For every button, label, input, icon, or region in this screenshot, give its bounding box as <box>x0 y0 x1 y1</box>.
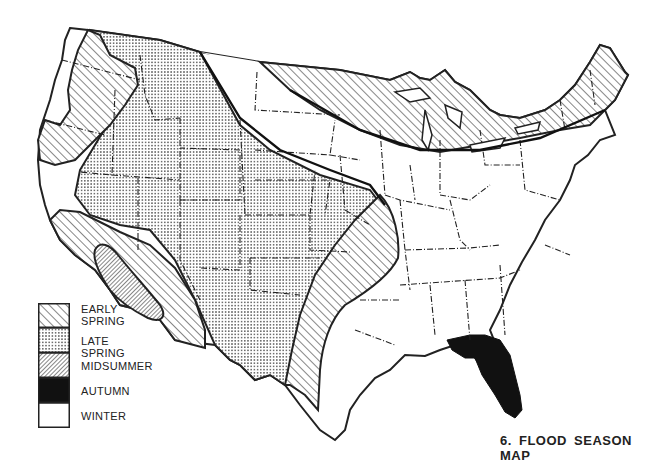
legend-label-early-spring-line1: EARLY <box>81 303 118 315</box>
midsummer-swatch-icon <box>38 353 70 378</box>
legend-label-winter: WINTER <box>81 410 126 422</box>
region-autumn-florida <box>447 335 522 418</box>
map-title: 6. FLOOD SEASON MAP <box>500 433 669 463</box>
early-spring-swatch-icon <box>38 303 70 328</box>
legend-label-midsummer: MIDSUMMER <box>81 360 153 372</box>
autumn-swatch-icon <box>38 378 70 403</box>
late-spring-swatch-icon <box>38 328 70 353</box>
legend-label-late-spring: LATE SPRING <box>81 335 125 359</box>
legend-label-early-spring-line2: SPRING <box>81 315 125 327</box>
flood-season-map <box>0 0 669 470</box>
legend-label-autumn: AUTUMN <box>81 385 130 397</box>
winter-swatch-icon <box>38 403 70 428</box>
